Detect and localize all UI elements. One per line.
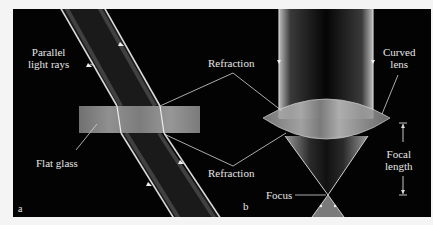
label-refraction-bottom: Refraction: [208, 168, 254, 179]
diverging-cone: [312, 195, 344, 217]
label-line: light rays: [28, 58, 69, 70]
label-line: lens: [383, 58, 415, 70]
arrow-icon: [86, 63, 92, 67]
label-parallel-light-rays: Parallel light rays: [28, 46, 69, 70]
label-line: Focal: [385, 148, 413, 160]
label-curved-lens: Curved lens: [383, 46, 415, 70]
label-focal-length: Focal length: [385, 148, 413, 172]
converging-cone: [285, 136, 368, 195]
label-refraction-top: Refraction: [208, 58, 254, 69]
label-flat-glass: Flat glass: [36, 158, 78, 169]
figure: Parallel light rays Flat glass Refractio…: [0, 0, 433, 225]
label-line: length: [385, 160, 413, 172]
label-line: Curved: [383, 46, 415, 58]
optics-illustration: [0, 0, 433, 225]
flat-glass: [79, 106, 200, 133]
label-focus: Focus: [266, 190, 292, 201]
panel-letter-a: a: [18, 203, 22, 214]
panel-letter-b: b: [243, 201, 249, 212]
label-line: Parallel: [28, 46, 69, 58]
